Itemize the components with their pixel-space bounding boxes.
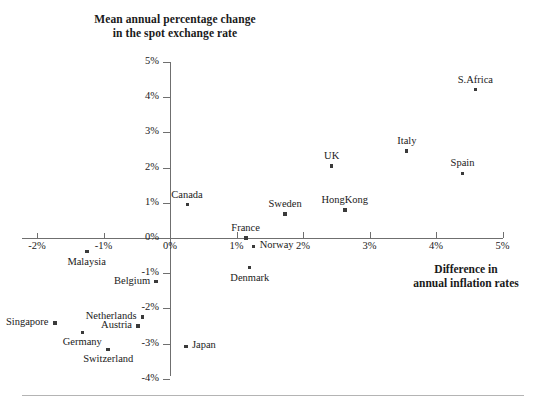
y-axis-tick-label: -3% — [119, 337, 159, 348]
x-axis-tick-label: 3% — [350, 240, 390, 251]
data-point — [186, 203, 189, 206]
data-point-label: Germany — [63, 336, 102, 347]
y-axis-tick-label: 4% — [119, 90, 159, 101]
y-axis-tick — [163, 97, 170, 98]
data-point-label: Denmark — [230, 272, 269, 283]
data-point-label: France — [231, 222, 260, 233]
data-point-label: Italy — [397, 135, 416, 146]
data-point-label: Norway — [260, 239, 294, 250]
data-point-label: Spain — [451, 157, 475, 168]
data-point-label: Malaysia — [67, 256, 106, 267]
y-axis-tick — [163, 203, 170, 204]
y-axis-tick — [163, 344, 170, 345]
data-point — [244, 236, 247, 239]
data-point — [330, 164, 333, 167]
data-point — [283, 212, 286, 215]
y-axis-tick — [163, 273, 170, 274]
bottom-divider — [22, 395, 524, 396]
y-axis-tick-label: 1% — [119, 196, 159, 207]
data-point — [154, 280, 157, 283]
data-point — [184, 345, 187, 348]
y-axis-tick-label: 2% — [119, 161, 159, 172]
x-axis-tick — [303, 232, 304, 238]
data-point — [405, 149, 408, 152]
plot-area: 5%4%3%2%1%0%-1%-2%-3%-4%-2%-1%0%1%2%3%4%… — [0, 0, 546, 410]
data-point-label: Canada — [171, 189, 203, 200]
data-point — [136, 324, 139, 327]
data-point-label: S.Africa — [458, 74, 493, 85]
x-axis-tick — [104, 233, 105, 239]
x-axis-tick-label: 5% — [483, 240, 523, 251]
x-axis-tick-label: 4% — [416, 240, 456, 251]
x-axis-title: Difference in annual inflation rates — [393, 262, 539, 290]
y-axis-line — [170, 62, 171, 376]
scatter-chart: Mean annual percentage change in the spo… — [0, 0, 546, 410]
y-axis-tick-label: 3% — [119, 125, 159, 136]
y-axis-tick — [163, 132, 170, 133]
data-point — [248, 266, 251, 269]
y-axis-tick-label: 5% — [119, 55, 159, 66]
x-axis-tick-label: -2% — [17, 240, 57, 251]
x-axis-title-line-2: annual inflation rates — [393, 276, 539, 290]
x-axis-tick — [370, 232, 371, 238]
x-axis-tick-label: -1% — [84, 240, 124, 251]
data-point-label: Austria — [101, 319, 132, 330]
y-axis-tick — [163, 379, 170, 380]
y-axis-tick — [163, 168, 170, 169]
data-point-label: Sweden — [269, 198, 302, 209]
y-axis-tick-label: -4% — [119, 372, 159, 383]
x-axis-tick — [436, 232, 437, 238]
data-point — [343, 208, 346, 211]
data-point-label: Singapore — [6, 316, 49, 327]
data-point-label: Switzerland — [83, 353, 133, 364]
y-axis-tick — [163, 62, 170, 63]
data-point-label: UK — [324, 150, 339, 161]
x-axis-tick — [37, 233, 38, 239]
data-point — [252, 245, 255, 248]
y-axis-tick — [163, 308, 170, 309]
data-point — [141, 315, 144, 318]
data-point — [474, 88, 477, 91]
data-point — [81, 331, 84, 334]
x-axis-tick — [503, 232, 504, 238]
data-point — [106, 348, 109, 351]
x-axis-title-line-1: Difference in — [393, 262, 539, 276]
data-point — [461, 172, 464, 175]
data-point — [53, 321, 56, 324]
data-point-label: Japan — [192, 339, 216, 350]
data-point — [85, 250, 88, 253]
data-point-label: Belgium — [114, 275, 150, 286]
x-axis-tick-label: 0% — [150, 240, 190, 251]
data-point-label: HongKong — [321, 194, 368, 205]
x-axis-tick-label: 1% — [217, 240, 257, 251]
